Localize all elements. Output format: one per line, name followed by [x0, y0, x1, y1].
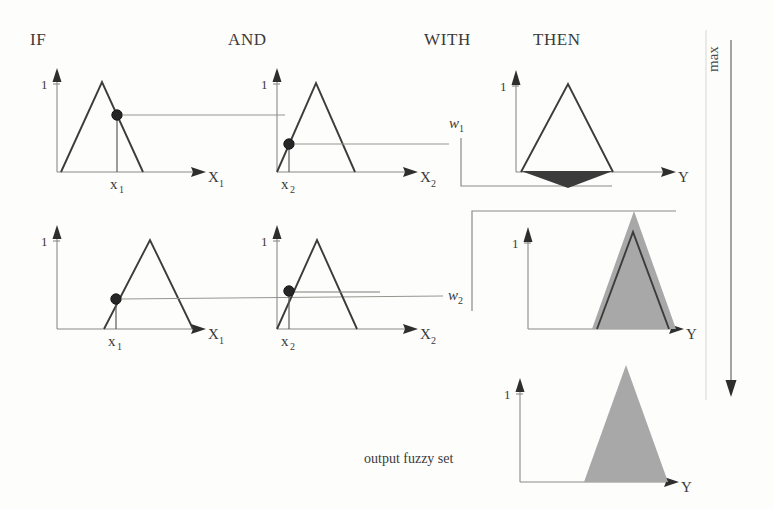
column-headers: IF AND WITH THEN	[30, 30, 581, 49]
header-then: THEN	[533, 30, 581, 49]
x-axis-name: X	[208, 326, 219, 342]
header-with: WITH	[424, 30, 471, 49]
panel-then-rule-1: 1 Y	[500, 70, 689, 188]
y-axis-label-one: 1	[504, 387, 511, 402]
y-axis-arrow	[524, 227, 533, 242]
x-tick-label-x1-sub: 1	[117, 341, 122, 352]
figure-canvas: IF AND WITH THEN 1 x 1 X 1	[0, 0, 773, 509]
fuzzy-inference-figure: IF AND WITH THEN 1 x 1 X 1	[0, 0, 773, 509]
panel-and-rule-2: 1 x 2 X 2	[261, 225, 436, 352]
x-tick-label-x2: x	[281, 333, 289, 349]
x-tick-label-x1: x	[110, 176, 118, 192]
y-axis-label-one: 1	[41, 234, 48, 249]
x-axis-name-sub: 2	[431, 178, 436, 189]
x-axis-name-sub: 1	[219, 178, 224, 189]
max-aggregation-indicator: max	[705, 40, 737, 397]
y-axis-label-one: 1	[500, 79, 507, 94]
y-axis-label-one: 1	[261, 77, 268, 92]
max-arrow-head	[726, 380, 737, 397]
x-tick-label-x2-sub: 2	[290, 184, 295, 195]
y-axis-arrow	[516, 378, 525, 392]
x-axis-name: Y	[681, 479, 692, 495]
y-axis-arrow	[512, 70, 521, 85]
weight-label-w1: w	[449, 115, 459, 131]
membership-marker-dot	[284, 286, 294, 296]
panel-then-rule-2: 1 Y	[512, 211, 697, 342]
membership-marker-dot	[284, 139, 294, 149]
panel-output-aggregate: 1 Y output fuzzy set	[364, 365, 692, 495]
x-axis-arrow	[403, 324, 418, 334]
x-axis-arrow	[191, 167, 206, 177]
membership-curve	[61, 82, 143, 172]
x-axis-name: X	[208, 169, 219, 185]
x-tick-label-x2-sub: 2	[290, 341, 295, 352]
x-axis-arrow	[191, 324, 206, 334]
membership-curve	[104, 240, 193, 329]
x-axis-name: X	[420, 326, 431, 342]
x-axis-name-sub: 1	[219, 335, 224, 346]
weight-label-w2: w	[448, 287, 458, 303]
output-fuzzy-set-fill	[584, 365, 668, 482]
x-axis-arrow	[661, 167, 676, 177]
header-and: AND	[228, 30, 267, 49]
panel-if-rule-2: 1 x 1 X 1	[41, 225, 224, 352]
y-axis-label-one: 1	[512, 236, 519, 251]
x-tick-label-x1-sub: 1	[119, 184, 124, 195]
y-axis-arrow	[273, 225, 282, 239]
y-axis-arrow	[53, 225, 62, 239]
weight-label-w2-sub: 2	[458, 295, 463, 306]
x-tick-label-x2: x	[281, 176, 289, 192]
max-label: max	[705, 46, 721, 72]
x-axis-name: Y	[678, 169, 689, 185]
x-axis-name: X	[420, 169, 431, 185]
weight-label-w1-sub: 1	[459, 123, 464, 134]
x-tick-label-x1: x	[108, 333, 116, 349]
y-axis-arrow	[53, 68, 62, 82]
membership-marker-dot	[112, 110, 122, 120]
x-axis-arrow	[403, 167, 418, 177]
membership-curve	[521, 84, 613, 172]
header-if: IF	[30, 30, 46, 49]
x-axis-name-sub: 2	[431, 335, 436, 346]
y-axis-arrow	[273, 68, 282, 82]
connector-if2-to-and2	[121, 296, 443, 299]
output-fuzzy-set-caption: output fuzzy set	[364, 451, 454, 466]
y-axis-label-one: 1	[261, 234, 268, 249]
membership-marker-dot	[111, 294, 121, 304]
x-axis-name: Y	[686, 326, 697, 342]
panel-if-rule-1: 1 x 1 X 1	[41, 68, 224, 195]
y-axis-label-one: 1	[41, 77, 48, 92]
panel-and-rule-1: 1 x 2 X 2	[261, 68, 436, 195]
